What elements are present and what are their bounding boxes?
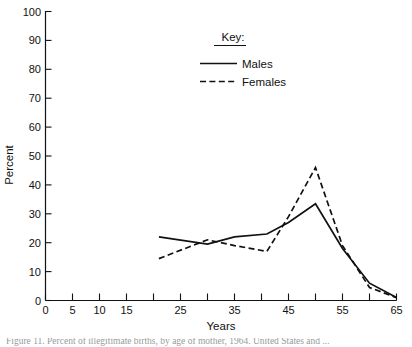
y-axis-tick-labels: 0 10 20 30 40 50 60 70 80 90 100 (23, 6, 41, 307)
y-tick-label-40: 40 (29, 179, 41, 191)
x-tick-label-45: 45 (282, 304, 294, 316)
y-tick-label-50: 50 (29, 150, 41, 162)
legend: Key: Males Females (200, 31, 286, 88)
series-line-females (159, 168, 397, 298)
x-axis-tick-labels: 0 5 10 15 25 35 45 55 65 (42, 304, 402, 316)
y-tick-label-60: 60 (29, 121, 41, 133)
figure-caption: Figure 11. Percent of illegitimate birth… (6, 338, 330, 346)
x-axis-title: Years (207, 320, 236, 332)
legend-title: Key: (221, 31, 244, 43)
caption-strip: Figure 11. Percent of illegitimate birth… (0, 338, 412, 347)
x-axis-ticks (46, 294, 397, 301)
y-tick-label-0: 0 (35, 295, 41, 307)
figure-container: 0 10 20 30 40 50 60 70 80 90 100 Percent (0, 0, 412, 347)
data-series-group (159, 168, 397, 298)
x-tick-label-10: 10 (93, 304, 105, 316)
y-tick-label-70: 70 (29, 92, 41, 104)
y-tick-label-10: 10 (29, 266, 41, 278)
series-line-males (159, 204, 397, 298)
y-tick-label-20: 20 (29, 237, 41, 249)
x-tick-label-0: 0 (42, 304, 48, 316)
x-tick-label-35: 35 (228, 304, 240, 316)
x-tick-label-25: 25 (174, 304, 186, 316)
legend-label-males: Males (242, 58, 273, 70)
y-tick-label-30: 30 (29, 208, 41, 220)
x-tick-label-65: 65 (390, 304, 402, 316)
x-tick-label-15: 15 (120, 304, 132, 316)
y-tick-label-90: 90 (29, 34, 41, 46)
y-tick-label-80: 80 (29, 63, 41, 75)
y-axis-ticks (46, 12, 52, 301)
y-axis-title: Percent (3, 144, 15, 184)
x-tick-label-5: 5 (69, 304, 75, 316)
y-tick-label-100: 100 (23, 6, 41, 18)
legend-label-females: Females (242, 76, 286, 88)
axis-group (46, 11, 397, 301)
x-tick-label-55: 55 (336, 304, 348, 316)
line-chart: 0 10 20 30 40 50 60 70 80 90 100 Percent (0, 0, 412, 347)
